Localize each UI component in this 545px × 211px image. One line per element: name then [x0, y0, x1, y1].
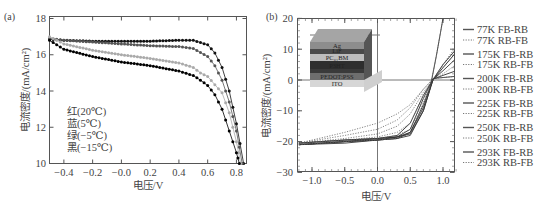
inset-layer-label: P3HT	[329, 62, 345, 69]
data-point	[149, 44, 152, 47]
data-point	[168, 39, 171, 42]
x-tick-label: −0.4	[54, 167, 74, 178]
x-tick-label: 0.5	[404, 175, 417, 186]
data-point	[152, 44, 155, 47]
data-point	[228, 100, 231, 103]
data-point	[101, 41, 104, 44]
data-point	[155, 44, 158, 47]
data-point	[231, 126, 234, 129]
data-point	[69, 49, 72, 52]
data-point	[181, 71, 184, 74]
data-point	[123, 61, 126, 64]
legend-label: 200K RB-FB	[477, 84, 533, 95]
data-point	[188, 39, 191, 42]
data-point	[114, 42, 117, 45]
data-point	[82, 47, 85, 50]
data-point	[217, 100, 220, 103]
data-point	[72, 39, 75, 42]
data-point	[91, 41, 94, 44]
x-tick-label: 0.0	[371, 175, 384, 186]
data-point	[59, 46, 62, 49]
data-point	[145, 64, 148, 67]
data-point	[62, 39, 65, 42]
x-tick-label: −0.0	[112, 167, 131, 178]
data-point	[203, 42, 206, 45]
data-point	[120, 42, 123, 45]
y-tick-label: 18	[36, 13, 47, 24]
data-point	[171, 68, 174, 71]
data-point	[174, 61, 177, 64]
data-point	[174, 39, 177, 42]
data-point	[161, 39, 164, 42]
legend-label: 175K RB-FB	[477, 59, 533, 70]
annotation-line: 绿(−5℃)	[67, 129, 107, 142]
data-point	[171, 39, 174, 42]
data-point	[188, 73, 191, 76]
data-point	[142, 56, 145, 59]
legend-label: 250K RB-FB	[477, 133, 533, 144]
data-point	[181, 39, 184, 42]
data-point	[129, 43, 132, 46]
data-point	[126, 43, 129, 46]
data-point	[129, 62, 132, 65]
data-point	[171, 45, 174, 48]
annotation-line: 黑(−15℃)	[67, 142, 113, 154]
data-point	[188, 65, 191, 68]
panel-b-chart: (b) −30−20−1001020 −1.0−0.50.00.51.0 AgL…	[260, 11, 456, 202]
data-point	[82, 53, 85, 56]
data-point	[123, 43, 126, 46]
data-point	[195, 76, 198, 79]
data-point	[142, 63, 145, 66]
x-tick-label: 1.0	[436, 175, 449, 186]
annotation-line: 蓝(5℃)	[67, 118, 101, 130]
data-point	[213, 51, 216, 54]
x-tick-label: −1.0	[302, 175, 321, 186]
data-point	[155, 65, 158, 68]
data-point	[78, 46, 81, 49]
data-point	[231, 106, 234, 109]
data-point	[210, 47, 213, 50]
y-tick-label: 14	[36, 86, 47, 97]
legend-item: 77K RB-FB	[463, 35, 528, 46]
data-point	[120, 40, 123, 43]
data-point	[177, 39, 180, 42]
legend-item: 293K FB-RB	[463, 147, 533, 158]
data-point	[168, 68, 171, 71]
data-point	[133, 40, 136, 43]
data-point	[210, 89, 213, 92]
data-point	[107, 51, 110, 54]
data-point	[91, 55, 94, 58]
legend-label: 225K FB-RB	[477, 98, 533, 109]
data-point	[165, 45, 168, 48]
x-tick-label: 0.6	[201, 167, 214, 178]
data-point	[217, 71, 220, 74]
inset-layer-label: PEDOT:PSS	[320, 73, 354, 80]
data-point	[94, 41, 97, 44]
y-tick-label: 0	[288, 75, 293, 86]
data-point	[203, 81, 206, 84]
data-point	[85, 47, 88, 50]
data-point	[91, 49, 94, 52]
device-structure-inset: AgLiFPC₆₁BMP3HTPEDOT:PSSITO	[310, 29, 382, 92]
data-point	[206, 75, 209, 78]
data-point	[136, 55, 139, 58]
data-point	[158, 44, 161, 47]
inset-layer-stack: AgLiFPC₆₁BMP3HTPEDOT:PSSITO	[310, 42, 364, 88]
data-point	[177, 70, 180, 73]
figure: (a) 1012141618 −0.4−0.2−0.00.20.40.60.8 …	[0, 0, 545, 211]
data-point	[139, 63, 142, 66]
legend-item: 250K RB-FB	[463, 133, 533, 144]
data-point	[66, 39, 69, 42]
data-point	[228, 111, 231, 114]
data-point	[133, 55, 136, 58]
data-point	[98, 41, 101, 44]
data-point	[228, 90, 231, 93]
data-point	[224, 101, 227, 104]
data-point	[139, 56, 142, 59]
x-tick-label: 0.2	[144, 167, 157, 178]
data-point	[66, 43, 69, 46]
panel-b-label: (b)	[266, 11, 278, 23]
data-point	[114, 52, 117, 55]
data-point	[107, 58, 110, 61]
data-point	[149, 57, 152, 60]
